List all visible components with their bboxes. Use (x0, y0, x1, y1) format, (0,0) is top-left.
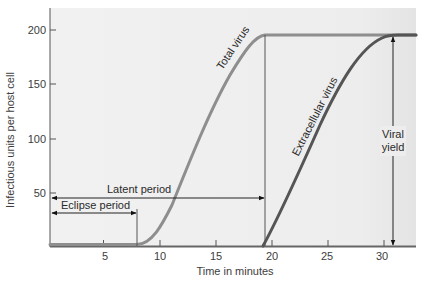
y-tick-150: 150 (28, 78, 46, 90)
x-tick-10: 10 (154, 250, 166, 262)
latent-period-label: Latent period (107, 183, 171, 195)
x-tick-25: 25 (321, 250, 333, 262)
eclipse-period-label: Eclipse period (61, 199, 130, 211)
one-step-growth-chart: 200 150 100 50 5 10 15 20 25 30 Time in … (0, 0, 427, 284)
y-tick-200: 200 (28, 24, 46, 36)
viral-yield-label-line1: Viral (382, 128, 404, 140)
y-axis-label: Infectious units per host cell (4, 72, 16, 208)
y-tick-50: 50 (34, 187, 46, 199)
x-tick-15: 15 (210, 250, 222, 262)
x-axis-label: Time in minutes (196, 265, 274, 277)
x-tick-30: 30 (376, 250, 388, 262)
x-tick-5: 5 (102, 250, 108, 262)
x-tick-20: 20 (266, 250, 278, 262)
viral-yield-label-line2: yield (382, 141, 405, 153)
y-tick-100: 100 (28, 133, 46, 145)
